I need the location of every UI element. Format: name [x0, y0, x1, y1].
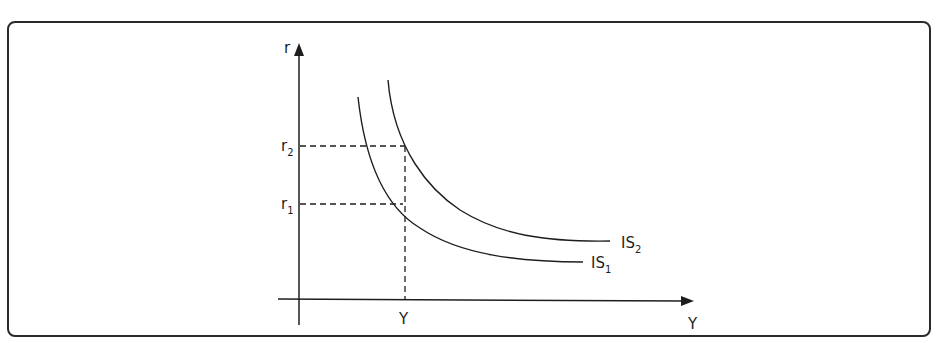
horizontal-axis: [278, 296, 694, 306]
axis-arrow-right-icon: [681, 296, 694, 306]
axis-arrow-up-icon: [294, 43, 304, 56]
is2-label: IS2: [621, 234, 641, 255]
y-tick-label: Y: [398, 310, 409, 328]
is2-curve: [388, 80, 610, 241]
is1-label: IS1: [591, 254, 611, 275]
is1-curve: [358, 97, 583, 262]
is-curve-diagram: r r2 r1 Y Y IS2 IS1: [0, 0, 938, 343]
y-axis-label: r: [284, 39, 291, 57]
guide-lines: [300, 146, 405, 300]
r1-label: r1: [281, 195, 294, 216]
r2-label: r2: [281, 137, 294, 158]
vertical-axis: [294, 43, 304, 325]
x-axis-label: Y: [687, 315, 698, 333]
